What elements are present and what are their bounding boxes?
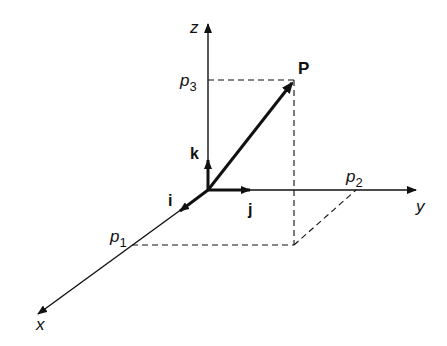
p3-label: p3: [179, 71, 197, 94]
p1-label: p1: [109, 227, 127, 250]
position-vector-p: [208, 83, 292, 190]
i-label: i: [168, 192, 172, 209]
z-axis-label: z: [189, 18, 199, 37]
vector-diagram: z y x P k j i p3 p2 p1: [0, 0, 447, 346]
point-p-label: P: [298, 59, 309, 78]
p2-label: p2: [345, 167, 363, 190]
x-axis-label: x: [35, 315, 45, 334]
y-axis-label: y: [415, 197, 426, 216]
k-label: k: [190, 145, 199, 162]
unit-vector-i: [180, 190, 208, 211]
j-label: j: [247, 201, 252, 218]
